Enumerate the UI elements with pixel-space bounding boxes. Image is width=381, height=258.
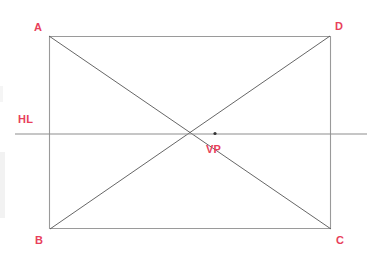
perspective-diagram <box>0 0 381 258</box>
label-point-a: A <box>34 22 42 33</box>
label-point-c: C <box>336 235 344 246</box>
label-horizon-line: HL <box>18 114 33 125</box>
diagram-canvas: A D B C HL VP <box>0 0 381 258</box>
vanishing-point-dot <box>213 132 216 135</box>
label-point-d: D <box>335 21 343 32</box>
label-point-b: B <box>35 235 43 246</box>
label-vanishing-point: VP <box>206 144 221 155</box>
